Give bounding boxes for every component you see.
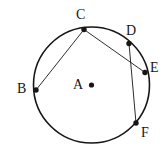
- point-dot-D: [126, 41, 131, 46]
- center-dot-A: [89, 82, 94, 87]
- point-label-B: B: [17, 82, 26, 96]
- point-label-D: D: [126, 24, 136, 38]
- point-dot-B: [33, 87, 38, 92]
- point-label-F: F: [141, 126, 149, 140]
- geometry-figure: B C D E F A: [0, 0, 167, 150]
- center-label-A: A: [73, 78, 83, 92]
- point-label-E: E: [150, 61, 159, 75]
- point-label-C: C: [76, 8, 85, 22]
- point-dot-F: [133, 120, 138, 125]
- point-dot-C: [81, 27, 86, 32]
- point-dot-E: [142, 70, 147, 75]
- chord-D-F: [129, 44, 136, 124]
